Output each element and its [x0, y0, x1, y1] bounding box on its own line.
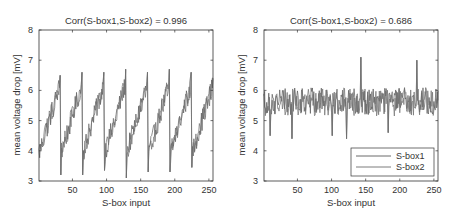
- legend-label: S-box1: [396, 151, 425, 161]
- right-chart-title: Corr(S-box1,S-box2) = 0.686: [290, 15, 412, 26]
- y-tick-label: 7: [253, 55, 258, 65]
- figure: Corr(S-box1,S-box2) = 0.996 S-box input …: [0, 0, 456, 216]
- legend: S-box1S-box2: [351, 148, 434, 176]
- y-tick-label: 5: [253, 116, 258, 126]
- left-y-axis-label: mean voltage drop [mV]: [11, 55, 22, 156]
- x-tick-label: 50: [67, 185, 77, 195]
- y-tick-label: 8: [253, 25, 258, 35]
- right-y-axis-label: mean voltage drop [mV]: [236, 55, 247, 156]
- x-tick-label: 150: [358, 185, 373, 195]
- x-tick-label: 200: [392, 185, 407, 195]
- x-tick-label: 250: [201, 185, 216, 195]
- series-lines: [39, 69, 213, 178]
- y-tick-label: 8: [28, 25, 33, 35]
- y-tick-label: 7: [28, 55, 33, 65]
- y-tick-label: 6: [28, 85, 33, 95]
- x-tick-label: 250: [426, 185, 441, 195]
- left-chart-title: Corr(S-box1,S-box2) = 0.996: [65, 15, 187, 26]
- series-lines: [264, 57, 438, 139]
- right-chart: Corr(S-box1,S-box2) = 0.686 S-box input …: [236, 15, 441, 208]
- x-tick-label: 150: [133, 185, 148, 195]
- legend-label: S-box2: [396, 162, 425, 172]
- y-tick-label: 4: [28, 146, 33, 156]
- y-tick-label: 3: [28, 176, 33, 186]
- x-tick-label: 50: [292, 185, 302, 195]
- y-tick-label: 4: [253, 146, 258, 156]
- y-tick-label: 5: [28, 116, 33, 126]
- left-x-axis-label: S-box input: [102, 197, 150, 208]
- x-tick-label: 100: [99, 185, 114, 195]
- right-x-axis-label: S-box input: [327, 197, 375, 208]
- x-tick-label: 200: [167, 185, 182, 195]
- y-tick-label: 6: [253, 85, 258, 95]
- left-chart: Corr(S-box1,S-box2) = 0.996 S-box input …: [11, 15, 216, 208]
- series-s-box2: [39, 69, 213, 178]
- y-tick-label: 3: [253, 176, 258, 186]
- x-tick-label: 100: [324, 185, 339, 195]
